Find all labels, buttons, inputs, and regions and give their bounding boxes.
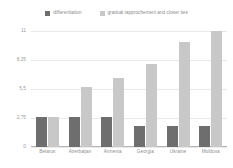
bar-group [31, 31, 64, 147]
x-axis-tick-label: Moldova [194, 150, 227, 155]
bar [199, 126, 210, 147]
chart-legend: differentiationgradual rapprochement and… [0, 6, 233, 20]
x-axis-tick-label: Ukraine [162, 150, 195, 155]
bar [211, 31, 222, 147]
x-axis-tick-label: Azerbaijan [64, 150, 97, 155]
y-axis-tick-label: 11 [0, 29, 26, 34]
bar [146, 64, 157, 147]
legend-label: gradual rapprochement and closer ties [108, 11, 188, 16]
x-axis-tick-labels: BelarusAzerbaijanArmeniaGeorgiaUkraineMo… [31, 150, 227, 155]
bar [81, 87, 92, 147]
bar-group [162, 31, 195, 147]
bar [69, 117, 80, 147]
x-axis-tick-label: Belarus [31, 150, 64, 155]
bar-chart: differentiationgradual rapprochement and… [0, 0, 233, 168]
bar [113, 78, 124, 147]
legend-label: differentiation [53, 11, 81, 16]
legend-swatch-icon [100, 11, 105, 16]
bar-groups [31, 31, 227, 147]
bar-group [129, 31, 162, 147]
bar-group [64, 31, 97, 147]
bar-group [194, 31, 227, 147]
x-axis-tick-label: Armenia [96, 150, 129, 155]
y-axis-tick-label: 8,25 [0, 58, 26, 63]
y-axis-tick-label: 0 [0, 145, 26, 150]
x-axis-tick-label: Georgia [129, 150, 162, 155]
bar [134, 126, 145, 147]
legend-swatch-icon [45, 11, 50, 16]
gridline [31, 147, 227, 148]
y-axis-tick-label: 5,5 [0, 87, 26, 92]
bar [101, 117, 112, 147]
legend-entry: differentiation [45, 11, 81, 16]
bar [48, 117, 59, 147]
y-axis-tick-label: 2,75 [0, 116, 26, 121]
bar [36, 117, 47, 147]
bar [167, 126, 178, 147]
bar [179, 42, 190, 147]
bar-group [96, 31, 129, 147]
legend-entry: gradual rapprochement and closer ties [100, 11, 188, 16]
